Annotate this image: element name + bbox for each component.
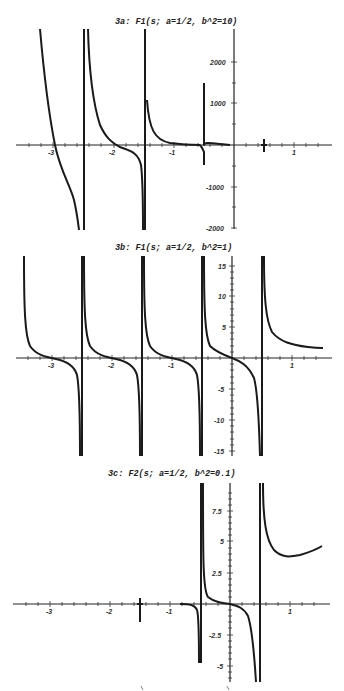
x-tick-label: 1 — [288, 608, 292, 615]
y-tick-label: -2.5 — [209, 632, 221, 639]
x-tick-label: -3 — [46, 608, 52, 615]
y-tick-label: -5 — [218, 386, 224, 393]
y-tick-label: -1000 — [206, 184, 224, 191]
x-tick-label: 1 — [292, 149, 296, 156]
x-tick-label: -3 — [48, 362, 54, 369]
x-tick-label: -1 — [168, 362, 174, 369]
x-tick-label: -2 — [108, 362, 114, 369]
chart-3a: 3a: F1(s; a=1/2, b^2=10) -3 -2 -1 1 2000… — [16, 17, 332, 232]
x-tick-label: -3 — [48, 149, 54, 156]
x-tick-label: 1 — [290, 362, 294, 369]
x-tick-label: -1 — [166, 608, 172, 615]
y-tick-label: 15 — [218, 263, 226, 270]
chart-title: 3b: F1(s; a=1/2, b^2=1) — [115, 243, 232, 253]
y-tick-label: 5 — [220, 538, 224, 545]
figure: 3a: F1(s; a=1/2, b^2=10) -3 -2 -1 1 2000… — [0, 0, 344, 691]
x-tick-label: -2 — [106, 608, 112, 615]
y-tick-label: 2000 — [209, 59, 226, 66]
y-tick-label: 1000 — [210, 100, 226, 107]
series-F1 — [40, 29, 267, 230]
y-tick-label: -10 — [214, 417, 224, 424]
y-tick-label: 5 — [222, 324, 226, 331]
series-F1 — [24, 256, 323, 456]
y-tick-label: 7.5 — [212, 508, 222, 515]
scan-marks — [141, 686, 229, 690]
y-tick-label: 2.5 — [211, 570, 222, 577]
y-tick-label: -15 — [214, 448, 224, 455]
y-tick-label: 10 — [218, 293, 226, 300]
chart-title: 3c: F2(s; a=1/2, b^2=0.1) — [108, 469, 236, 479]
x-tick-label: -1 — [169, 149, 175, 156]
chart-title: 3a: F1(s; a=1/2, b^2=10) — [115, 17, 237, 27]
y-tick-label: -5 — [217, 663, 223, 670]
chart-3b: 3b: F1(s; a=1/2, b^2=1) -3 -2 -1 1 15 10… — [16, 243, 332, 456]
chart-3c: 3c: F2(s; a=1/2, b^2=0.1) -3 -2 -1 1 7.5… — [13, 469, 330, 682]
y-tick-label: -2000 — [206, 225, 224, 232]
x-tick-label: -2 — [109, 149, 115, 156]
